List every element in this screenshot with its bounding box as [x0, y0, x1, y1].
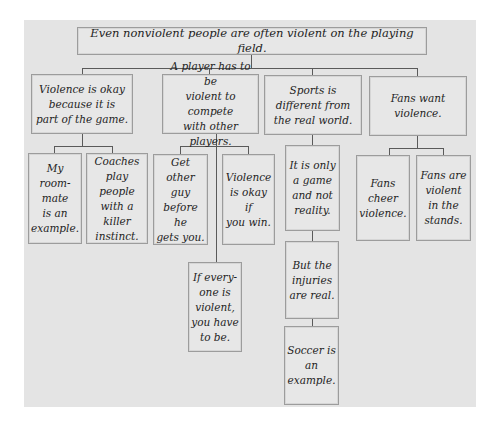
leaf-node: It is only a game and not reality.	[285, 145, 340, 231]
leaf-node: If every- one is violent, you have to be…	[188, 262, 242, 352]
connector	[443, 148, 444, 155]
connector	[417, 68, 418, 76]
connector	[216, 134, 217, 262]
leaf-node: Coaches play people with a killer instin…	[86, 153, 148, 244]
leaf-node: Fans are violent in the stands.	[416, 155, 471, 241]
leaf-node: Fans cheer violence.	[356, 155, 410, 241]
root-node: Even nonviolent people are often violent…	[77, 27, 427, 55]
connector	[312, 68, 313, 75]
connector	[82, 134, 83, 146]
branch-node-compete: A player has to be violent to compete wi…	[162, 74, 259, 134]
connector	[312, 231, 313, 241]
connector	[112, 146, 113, 153]
branch-node-real-world: Sports is different from the real world.	[264, 75, 362, 135]
connector	[312, 319, 313, 326]
leaf-node: Get other guy before he gets you.	[153, 154, 208, 245]
leaf-node: Soccer is an example.	[284, 326, 339, 405]
connector	[54, 146, 113, 147]
connector	[389, 148, 390, 155]
leaf-node: My room- mate is an example.	[28, 153, 82, 244]
connector	[417, 136, 418, 148]
connector	[389, 148, 444, 149]
connector	[54, 146, 55, 153]
connector	[312, 135, 313, 145]
leaf-node: Violence is okay if you win.	[222, 154, 275, 245]
branch-node-fans: Fans want violence.	[369, 76, 467, 136]
branch-node-game: Violence is okay because it is part of t…	[31, 74, 133, 134]
leaf-node: But the injuries are real.	[285, 241, 339, 319]
